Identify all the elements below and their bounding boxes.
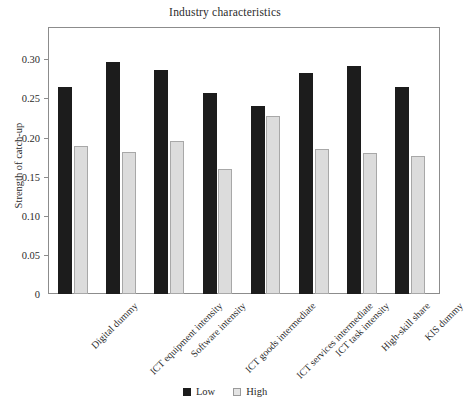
y-tick-label: 0.05 xyxy=(0,249,40,260)
bar-high xyxy=(266,116,280,294)
legend-item[interactable]: High xyxy=(233,386,267,397)
bar-high xyxy=(363,153,377,294)
bar-high xyxy=(218,169,232,294)
y-axis-title: Strength of catch-up xyxy=(13,86,24,246)
legend-label: High xyxy=(246,386,267,397)
legend-swatch-icon xyxy=(183,388,191,396)
bar-low xyxy=(347,66,361,294)
chart-title: Industry characteristics xyxy=(0,6,450,18)
bar-high xyxy=(122,152,136,294)
plot-area xyxy=(48,27,440,294)
legend-label: Low xyxy=(196,386,215,397)
bar-low xyxy=(251,106,265,294)
bar-high xyxy=(411,156,425,294)
bar-low xyxy=(203,93,217,294)
bar-low xyxy=(395,87,409,294)
y-axis: 00.050.100.150.200.250.30 xyxy=(0,0,48,407)
legend-item[interactable]: Low xyxy=(183,386,215,397)
bar-low xyxy=(154,70,168,294)
bar-low xyxy=(58,87,72,294)
bar-low xyxy=(106,62,120,294)
y-tick-label: 0.30 xyxy=(0,54,40,65)
bar-high xyxy=(170,141,184,294)
bar-high xyxy=(74,146,88,294)
x-tick-label: Digital dummy xyxy=(89,300,140,351)
y-tick-label: 0 xyxy=(0,289,40,300)
bar-low xyxy=(299,73,313,294)
legend-swatch-icon xyxy=(233,388,241,396)
chart-legend: LowHigh xyxy=(0,386,450,397)
bar-high xyxy=(315,149,329,294)
